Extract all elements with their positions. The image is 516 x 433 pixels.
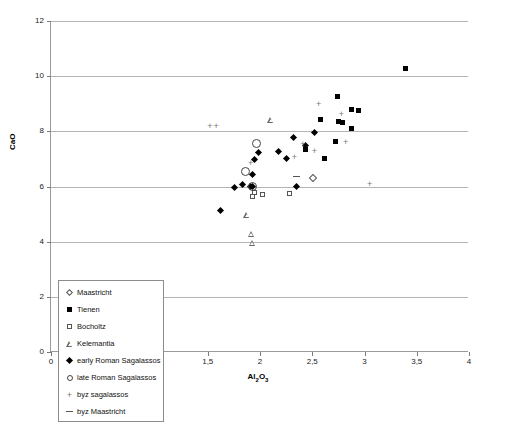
y-axis-tick xyxy=(47,297,51,298)
gridline-horizontal xyxy=(51,131,468,132)
data-point-plus xyxy=(338,110,346,118)
open-triangle-glyph xyxy=(67,341,73,347)
open-circle-icon xyxy=(63,373,76,383)
data-point-filled-diamond xyxy=(311,129,318,136)
data-point-plus xyxy=(315,100,323,108)
y-axis-tick xyxy=(47,76,51,77)
data-point-filled-square xyxy=(403,66,408,71)
legend-item-label: Bocholtz xyxy=(77,322,106,331)
data-point-plus xyxy=(290,153,298,161)
chart-legend: MaastrichtTienenBocholtzKelemantiaearly … xyxy=(58,280,164,422)
legend-item-late-roman-sagalassos[interactable]: late Roman Sagalassos xyxy=(63,369,161,386)
filled-square-glyph xyxy=(67,307,72,312)
gridline-horizontal xyxy=(51,242,468,243)
open-triangle-icon xyxy=(63,339,76,349)
data-point-open-triangle xyxy=(244,212,250,218)
data-point-filled-square xyxy=(322,156,327,161)
y-axis-tick xyxy=(47,242,51,243)
data-point-filled-diamond xyxy=(283,155,290,162)
x-axis-tick-label: 1,5 xyxy=(195,357,221,366)
data-point-filled-diamond xyxy=(293,183,300,190)
data-point-filled-diamond xyxy=(231,184,238,191)
legend-item-label: Kelemantia xyxy=(77,339,115,348)
legend-item-label: early Roman Sagalassos xyxy=(77,356,160,365)
open-square-glyph xyxy=(67,324,72,329)
x-axis-tick xyxy=(312,352,313,356)
open-diamond-icon xyxy=(63,288,76,298)
y-axis-tick-label: 8 xyxy=(18,126,44,135)
data-point-filled-diamond xyxy=(275,148,282,155)
scatter-chart: CaO Al2O3 02468101200,511,522,533,54 Maa… xyxy=(0,0,516,433)
data-point-filled-square xyxy=(349,126,354,131)
filled-square-icon xyxy=(63,305,76,315)
data-point-plus xyxy=(342,138,350,146)
data-point-filled-diamond xyxy=(217,207,224,214)
data-point-plus xyxy=(366,180,374,188)
legend-item-kelemantia[interactable]: Kelemantia xyxy=(63,335,161,352)
legend-item-maastricht[interactable]: Maastricht xyxy=(63,284,161,301)
data-point-dash xyxy=(293,176,300,177)
data-point-filled-square xyxy=(318,117,323,122)
y-axis-title: CaO xyxy=(8,134,17,150)
x-axis-tick xyxy=(260,352,261,356)
data-point-open-triangle xyxy=(249,240,255,246)
x-axis-tick-label: 2 xyxy=(247,357,273,366)
y-axis-tick-label: 0 xyxy=(18,347,44,356)
x-axis-title-sub2: 3 xyxy=(265,377,268,383)
data-point-open-triangle xyxy=(248,231,254,237)
data-point-open-triangle xyxy=(268,117,274,123)
y-axis-tick-label: 12 xyxy=(18,16,44,25)
x-axis-tick xyxy=(417,352,418,356)
open-square-icon xyxy=(63,322,76,332)
data-point-filled-square xyxy=(335,94,340,99)
data-point-open-square xyxy=(287,191,292,196)
legend-item-tienen[interactable]: Tienen xyxy=(63,301,161,318)
x-axis-tick-label: 3,5 xyxy=(404,357,430,366)
data-point-filled-diamond xyxy=(249,171,256,178)
legend-item-label: late Roman Sagalassos xyxy=(77,373,156,382)
x-axis-tick xyxy=(208,352,209,356)
open-circle-glyph xyxy=(67,375,73,381)
filled-diamond-glyph xyxy=(66,357,73,364)
legend-item-bocholtz[interactable]: Bocholtz xyxy=(63,318,161,335)
x-axis-tick-label: 4 xyxy=(456,357,482,366)
data-point-plus xyxy=(212,122,220,130)
plus-glyph xyxy=(66,391,74,399)
data-point-open-circle xyxy=(241,167,250,176)
data-point-open-diamond xyxy=(309,174,317,182)
legend-item-label: byz Maastricht xyxy=(77,407,125,416)
data-point-open-square xyxy=(250,194,255,199)
open-diamond-glyph xyxy=(66,289,73,296)
y-axis-tick xyxy=(47,131,51,132)
legend-item-byz-maastricht[interactable]: byz Maastricht xyxy=(63,403,161,420)
x-axis-tick xyxy=(51,352,52,356)
plus-icon xyxy=(63,390,76,400)
y-axis-tick-label: 2 xyxy=(18,292,44,301)
data-point-plus xyxy=(247,159,255,167)
y-axis-tick-label: 10 xyxy=(18,71,44,80)
legend-item-early-roman-sagalassos[interactable]: early Roman Sagalassos xyxy=(63,352,161,369)
data-point-filled-square xyxy=(340,120,345,125)
data-point-open-square xyxy=(260,192,265,197)
dash-glyph xyxy=(66,411,73,412)
legend-item-label: Maastricht xyxy=(77,288,112,297)
legend-item-label: byz sagalassos xyxy=(77,390,128,399)
data-point-plus xyxy=(299,140,307,148)
gridline-horizontal xyxy=(51,187,468,188)
y-axis-tick-label: 4 xyxy=(18,237,44,246)
x-axis-title-pre: Al xyxy=(248,372,256,381)
gridline-horizontal xyxy=(51,76,468,77)
x-axis-tick-label: 2,5 xyxy=(299,357,325,366)
dash-icon xyxy=(63,407,76,417)
data-point-open-circle xyxy=(252,139,261,148)
y-axis-tick xyxy=(47,187,51,188)
data-point-filled-square xyxy=(356,108,361,113)
gridline-horizontal xyxy=(51,21,468,22)
legend-item-byz-sagalassos[interactable]: byz sagalassos xyxy=(63,386,161,403)
y-axis-tick xyxy=(47,21,51,22)
x-axis-tick-label: 3 xyxy=(352,357,378,366)
x-axis-tick xyxy=(469,352,470,356)
data-point-filled-diamond xyxy=(290,134,297,141)
data-point-filled-square xyxy=(349,107,354,112)
filled-diamond-icon xyxy=(63,356,76,366)
